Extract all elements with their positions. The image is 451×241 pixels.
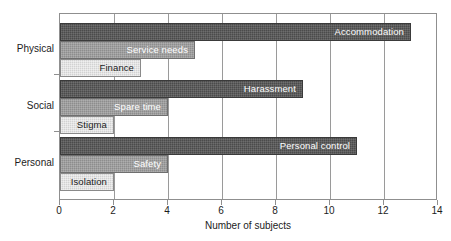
gridline: [384, 14, 385, 199]
bar: Finance: [60, 59, 141, 77]
x-axis-tick-label: 12: [377, 206, 388, 216]
bar-label: Finance: [100, 63, 141, 73]
x-axis-tick-label: 6: [218, 206, 224, 216]
gridline: [222, 14, 223, 199]
y-axis: PhysicalSocialPersonal: [0, 0, 54, 241]
x-axis-tick-label: 2: [110, 206, 116, 216]
bar: Personal control: [60, 137, 357, 155]
x-axis-tick-label: 4: [164, 206, 170, 216]
bar: Harassment: [60, 80, 303, 98]
bar-label: Isolation: [71, 177, 113, 187]
bar-label: Service needs: [126, 45, 194, 55]
y-axis-category-label: Personal: [15, 158, 54, 168]
x-axis-tick-label: 0: [56, 206, 62, 216]
bar: Stigma: [60, 116, 114, 134]
bar: Safety: [60, 155, 168, 173]
bar: Accommodation: [60, 23, 411, 41]
x-axis-title: Number of subjects: [59, 221, 437, 231]
bar: Spare time: [60, 98, 168, 116]
x-axis-tick-label: 10: [323, 206, 334, 216]
gridline: [276, 14, 277, 199]
x-axis-tick-label: 14: [431, 206, 442, 216]
gridline: [330, 14, 331, 199]
bar-label: Personal control: [280, 141, 356, 151]
x-axis-tick-label: 8: [272, 206, 278, 216]
bar-label: Safety: [133, 159, 167, 169]
bar: Service needs: [60, 41, 195, 59]
y-axis-tick: [54, 74, 59, 75]
bar: Isolation: [60, 173, 114, 191]
bar-label: Spare time: [114, 102, 167, 112]
bar-label: Harassment: [244, 84, 302, 94]
bar-label: Accommodation: [335, 27, 410, 37]
plot-area: AccommodationService needsFinanceHarassm…: [59, 13, 437, 200]
bar-chart: AccommodationService needsFinanceHarassm…: [0, 0, 451, 241]
y-axis-tick: [54, 131, 59, 132]
y-axis-category-label: Social: [27, 101, 54, 111]
y-axis-category-label: Physical: [17, 44, 54, 54]
bar-label: Stigma: [77, 120, 113, 130]
